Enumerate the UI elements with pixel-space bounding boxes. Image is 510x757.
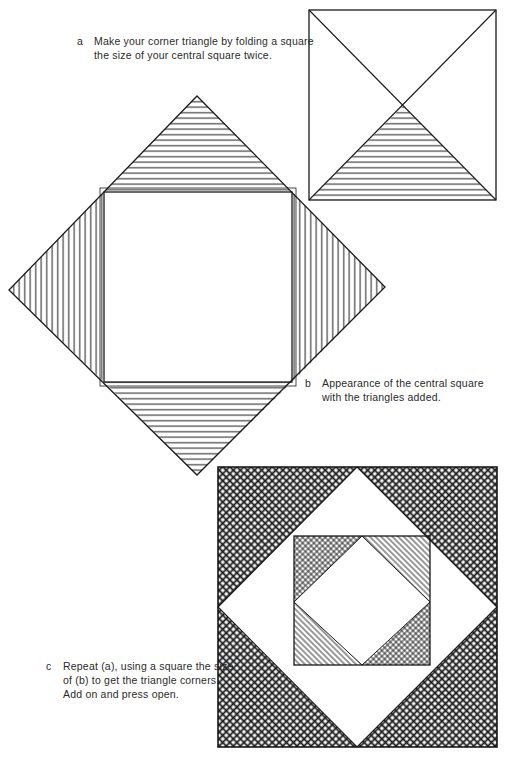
caption-b-text: Appearance of the central square with th… <box>322 376 505 404</box>
caption-b: b Appearance of the central square with … <box>305 376 505 404</box>
central-square <box>104 192 292 382</box>
figure-b-diamond-block <box>9 96 385 475</box>
left-triangle <box>9 192 104 382</box>
caption-b-letter: b <box>305 376 311 390</box>
hatched-corner-triangle <box>309 106 496 200</box>
figure-c-finished-block <box>218 467 497 747</box>
caption-a-text: Make your corner triangle by folding a s… <box>94 34 317 62</box>
figure-a-folded-square <box>309 10 496 200</box>
caption-c: c Repeat (a), using a square the size of… <box>46 659 236 701</box>
bottom-triangle <box>104 382 292 475</box>
top-triangle <box>104 96 292 192</box>
right-triangle <box>292 192 385 382</box>
caption-c-text: Repeat (a), using a square the size of (… <box>63 659 236 701</box>
caption-a-letter: a <box>77 34 83 48</box>
caption-c-letter: c <box>46 659 51 673</box>
caption-a: a Make your corner triangle by folding a… <box>77 34 317 62</box>
